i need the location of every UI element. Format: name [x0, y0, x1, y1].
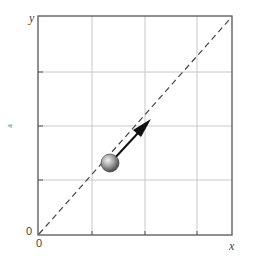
side-mark-label: a	[6, 124, 14, 128]
origin-y-label: 0	[26, 226, 32, 237]
origin-x-label: 0	[36, 238, 42, 249]
dashed-diagonal-line	[39, 20, 229, 234]
y-axis-label: y	[29, 12, 34, 24]
diagram-canvas	[0, 0, 271, 262]
diagram: y x 0 0 a	[0, 0, 271, 262]
tick-marks	[38, 72, 197, 235]
ball	[101, 154, 119, 172]
x-axis-label: x	[229, 240, 234, 252]
